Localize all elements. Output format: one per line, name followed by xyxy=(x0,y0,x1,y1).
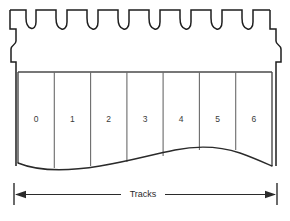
track-label-6: 6 xyxy=(251,114,256,124)
dimension-label-tracks: Tracks xyxy=(130,189,157,199)
left-arrowhead xyxy=(15,191,26,198)
tape-track-diagram: 0 1 2 3 4 5 6 Tracks xyxy=(0,0,290,221)
right-arrowhead xyxy=(265,191,276,198)
diagram-canvas: 0 1 2 3 4 5 6 Tracks xyxy=(0,0,290,221)
track-label-2: 2 xyxy=(106,114,111,124)
track-label-0: 0 xyxy=(34,114,39,124)
left-stepped-edge xyxy=(10,10,16,166)
track-label-4: 4 xyxy=(179,114,184,124)
tape-outline-group xyxy=(10,10,281,166)
track-label-group: 0 1 2 3 4 5 6 xyxy=(34,114,257,124)
track-label-5: 5 xyxy=(215,114,220,124)
track-label-1: 1 xyxy=(70,114,75,124)
track-label-3: 3 xyxy=(143,114,148,124)
tape-lower-wave-curve xyxy=(18,147,272,170)
sprocket-top-edge xyxy=(10,10,270,29)
tracks-dimension-group: Tracks xyxy=(14,183,277,205)
